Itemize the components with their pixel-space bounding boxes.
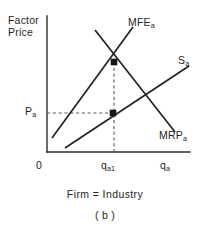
y-axis-label: Factor Price: [8, 14, 39, 39]
mfe-curve-label: MFEa: [128, 16, 155, 28]
mfe-curve-label-sub: a: [151, 22, 155, 30]
mrp-curve-label: MRPa: [159, 129, 187, 141]
supply-curve-label: Sa: [178, 54, 189, 66]
x-axis-tick-qa1: qa1: [101, 159, 115, 171]
equilibrium-marker-mfe-mrp: [111, 59, 117, 65]
x-axis-tick-qa-sub: a: [166, 165, 170, 173]
y-axis-label-line2: Price: [8, 26, 39, 38]
factor-market-diagram: Factor Price MFEa Sa MRPa Pa 0 qa1 qa Fi…: [0, 0, 210, 232]
mrp-curve-label-base: MRP: [159, 129, 183, 141]
y-axis-tick-price: Pa: [25, 105, 36, 117]
supply-curve-label-sub: a: [185, 60, 189, 68]
mrp-curve-label-sub: a: [183, 135, 187, 143]
x-axis-tick-qa: qa: [160, 159, 170, 171]
figure-caption: Firm = Industry: [0, 188, 210, 200]
x-axis-tick-qa1-sub: a1: [107, 165, 115, 173]
x-axis-tick-origin: 0: [36, 159, 42, 171]
mfe-curve: [52, 27, 133, 138]
equilibrium-marker-price-supply: [110, 110, 116, 116]
mrp-curve: [95, 30, 175, 132]
y-axis-label-line1: Factor: [8, 14, 39, 26]
mfe-curve-label-base: MFE: [128, 16, 151, 28]
y-axis-tick-price-sub: a: [32, 111, 36, 119]
panel-label: ( b ): [0, 209, 210, 221]
